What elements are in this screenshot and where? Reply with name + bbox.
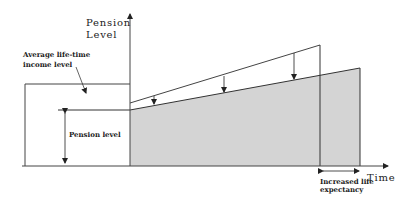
y-axis-label-line2: Level — [86, 29, 117, 40]
income-label-line2: income level — [23, 60, 73, 69]
pension-area — [130, 68, 360, 166]
y-axis-label-line1: Pension — [86, 17, 131, 28]
pension-diagram: Pension Level Time Average life-time inc… — [0, 0, 409, 203]
income-label-pointer — [76, 67, 86, 93]
pension-level-label: Pension level — [69, 130, 121, 139]
income-label-line1: Average life-time — [22, 50, 91, 59]
average-income-box — [25, 84, 130, 166]
life-expectancy-label-line2: expectancy — [320, 185, 364, 194]
